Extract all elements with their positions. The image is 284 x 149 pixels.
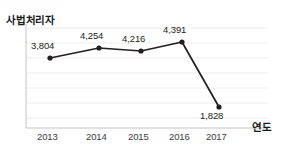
data-point-2017 bbox=[216, 104, 221, 109]
axes bbox=[26, 24, 268, 128]
plot-area bbox=[0, 0, 284, 149]
data-point-2015 bbox=[138, 48, 143, 53]
data-point-2016 bbox=[179, 39, 184, 44]
x-tick-2015: 2015 bbox=[128, 131, 149, 142]
data-label-2014: 4,254 bbox=[80, 30, 103, 41]
x-tick-2014: 2014 bbox=[86, 131, 107, 142]
x-tick-2017: 2017 bbox=[206, 131, 227, 142]
data-label-2013: 3,804 bbox=[31, 40, 54, 51]
series-line-sabeop bbox=[50, 42, 219, 107]
data-point-2013 bbox=[47, 55, 52, 60]
data-label-2015: 4,216 bbox=[122, 33, 145, 44]
x-axis-title: 연도 bbox=[252, 119, 272, 134]
data-point-2014 bbox=[96, 45, 101, 50]
line-chart: ······················ 사법처리자 3,804 4,254… bbox=[0, 0, 284, 149]
data-label-2016: 4,391 bbox=[163, 24, 186, 35]
x-tick-2016: 2016 bbox=[169, 131, 190, 142]
x-tick-2013: 2013 bbox=[37, 131, 58, 142]
gridlines bbox=[26, 28, 268, 118]
data-label-2017: 1,828 bbox=[200, 110, 223, 121]
